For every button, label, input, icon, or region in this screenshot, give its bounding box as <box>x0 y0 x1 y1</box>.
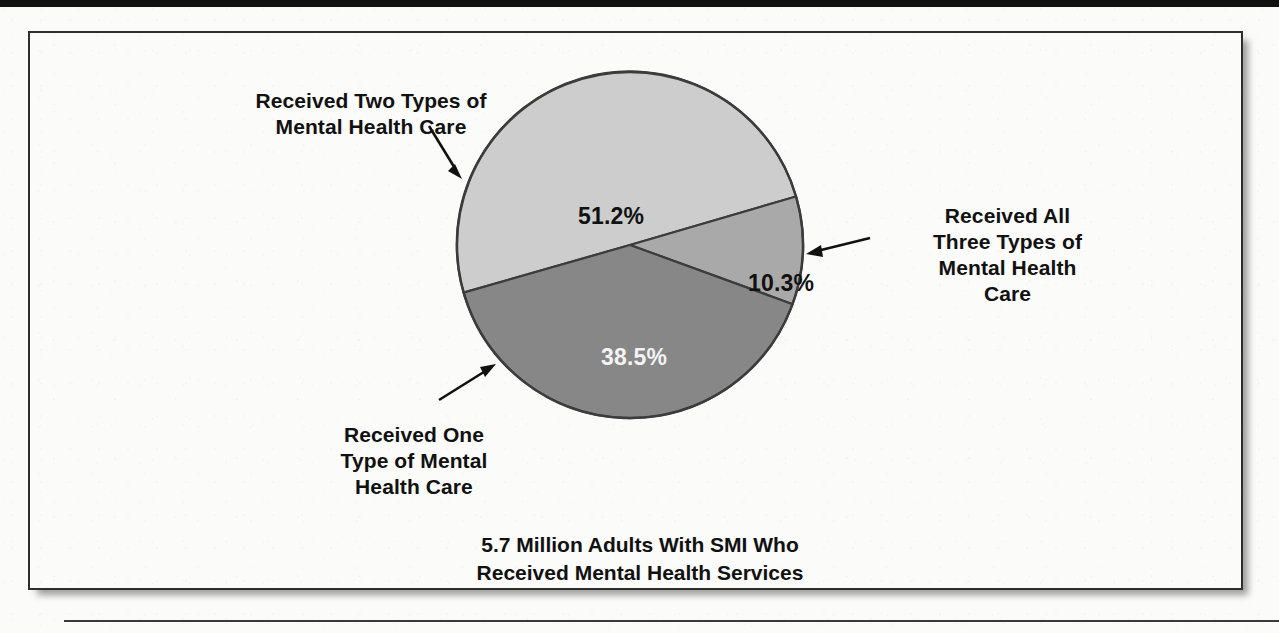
slice-label-all-three: Received All Three Types of Mental Healt… <box>900 203 1115 307</box>
chart-page: 51.2% 10.3% 38.5% Received Two Types of … <box>0 0 1279 633</box>
slice-value-one-type: 38.5% <box>601 344 667 371</box>
slice-label-two-types: Received Two Types of Mental Health Care <box>226 88 516 140</box>
pie-chart-svg <box>30 33 1241 588</box>
leader-arrow-one-type <box>439 364 496 400</box>
top-divider-rule <box>0 0 1279 7</box>
slice-value-all-three: 10.3% <box>748 270 814 297</box>
pie-chart: 51.2% 10.3% 38.5% Received Two Types of … <box>30 33 1241 588</box>
chart-caption: 5.7 Million Adults With SMI Who Received… <box>360 531 920 587</box>
bottom-divider-rule <box>64 620 1279 622</box>
chart-frame: 51.2% 10.3% 38.5% Received Two Types of … <box>28 31 1243 590</box>
slice-value-two-types: 51.2% <box>578 203 644 230</box>
leader-arrow-all-three <box>806 238 870 257</box>
slice-label-one-type: Received One Type of Mental Health Care <box>298 422 530 500</box>
